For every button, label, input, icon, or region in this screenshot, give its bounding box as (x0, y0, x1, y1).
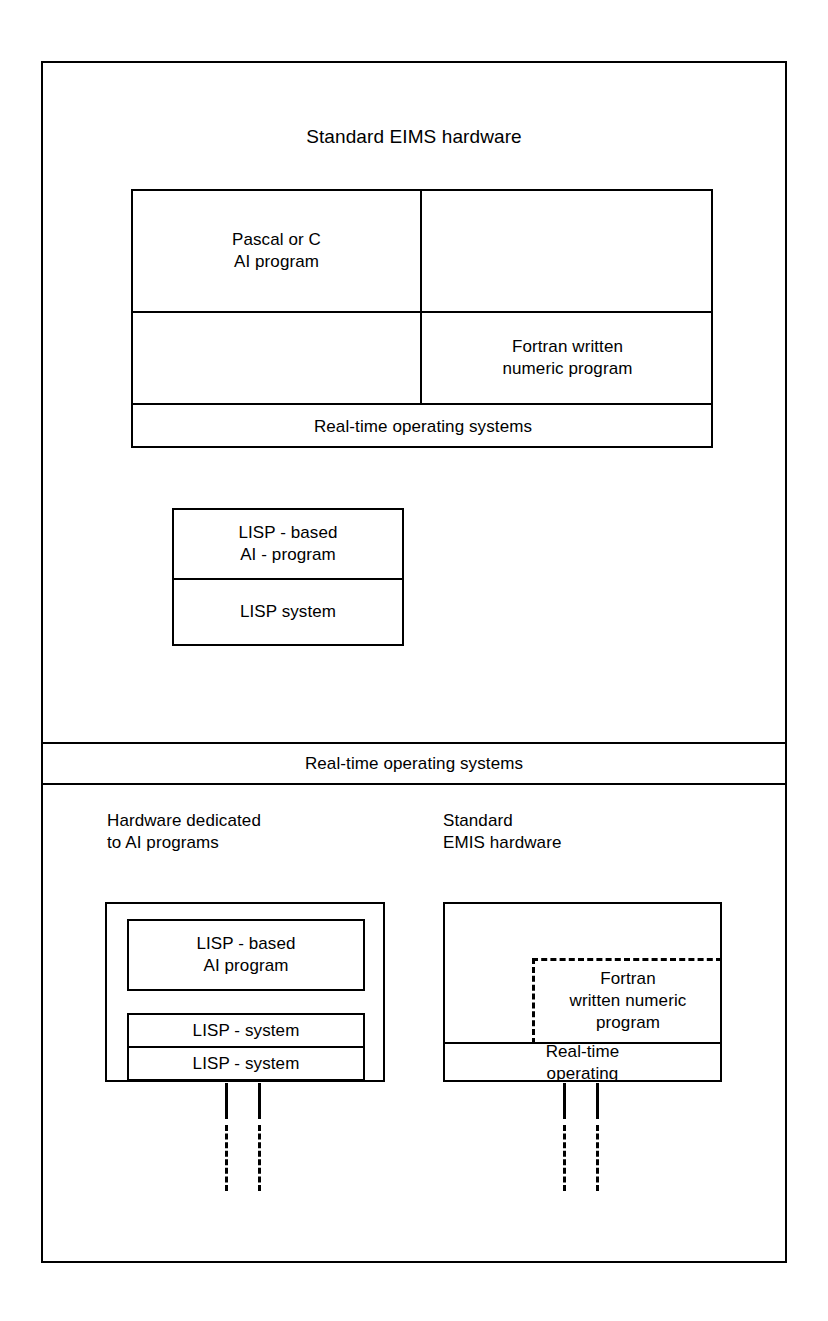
cell-pascal-or-c-ai-program: Pascal or C AI program (133, 191, 420, 311)
left-group-dashed-connector-1 (225, 1125, 228, 1191)
cell-fortran-numeric-program: Fortran written numeric program (422, 313, 713, 403)
left-group-dashed-connector-2 (258, 1125, 261, 1191)
upper-section-title: Standard EIMS hardware (41, 122, 787, 152)
middle-band-label: Real-time operating systems (41, 744, 787, 783)
left-group-connector-1 (225, 1083, 228, 1119)
right-group-dashed-connector-1 (563, 1125, 566, 1191)
cell-mid-left-empty (133, 313, 420, 403)
right-group-connector-2 (596, 1083, 599, 1119)
left-group-connector-2 (258, 1083, 261, 1119)
lower-left-lisp-system-label-2: LISP - system (127, 1046, 365, 1081)
diagram-canvas: Standard EIMS hardware Pascal or C AI pr… (0, 0, 828, 1321)
lower-right-fortran-program-label: Fortran written numeric program (534, 960, 722, 1042)
lisp-system-box: LISP system (174, 580, 402, 644)
right-group-connector-1 (563, 1083, 566, 1119)
lower-left-caption: Hardware dedicated to AI programs (107, 807, 387, 857)
cell-top-right-empty (422, 191, 713, 311)
lisp-based-ai-program-box: LISP - based AI - program (174, 510, 402, 578)
cell-real-time-operating-systems: Real-time operating systems (133, 405, 713, 448)
lower-right-real-time-operating-label: Real-time operating (445, 1044, 720, 1082)
lower-left-lisp-system-label-1: LISP - system (127, 1013, 365, 1048)
lower-left-lisp-ai-program-label: LISP - based AI program (127, 919, 365, 991)
right-group-dashed-connector-2 (596, 1125, 599, 1191)
middle-band-bottom-divider (41, 783, 787, 785)
lower-right-caption: Standard EMIS hardware (443, 807, 723, 857)
